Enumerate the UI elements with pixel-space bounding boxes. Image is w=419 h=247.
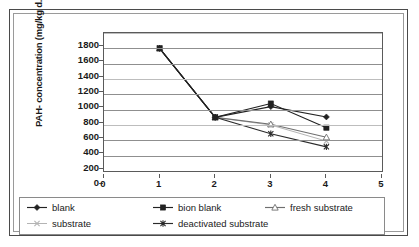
chart-legend: blankbion blankfresh substratesubstrated… xyxy=(19,197,385,235)
y-tick-label: 1600 xyxy=(55,55,99,65)
y-tick-label: 1200 xyxy=(55,86,99,96)
y-tick-label: 600 xyxy=(55,132,99,142)
data-point-filled-diamond xyxy=(323,114,329,120)
gridline xyxy=(104,64,382,65)
gridline xyxy=(104,33,382,34)
legend-label: deactivated substrate xyxy=(178,219,268,229)
data-point-filled-diamond xyxy=(34,205,40,211)
gridline xyxy=(104,94,382,95)
y-tick-label: 1400 xyxy=(55,71,99,81)
legend-marker-filled-diamond-icon xyxy=(26,202,48,213)
x-tick-label: 5 xyxy=(366,179,396,189)
x-axis-ticks: 012345 xyxy=(103,174,383,194)
gridline xyxy=(104,79,382,80)
legend-label: fresh substrate xyxy=(290,203,353,213)
legend-item-substrate[interactable]: substrate xyxy=(26,218,91,229)
x-tick-mark xyxy=(103,174,104,178)
series-lines xyxy=(104,33,382,171)
x-tick-label: 4 xyxy=(310,179,340,189)
x-tick-mark xyxy=(381,174,382,178)
gridline xyxy=(104,156,382,157)
data-point-filled-square xyxy=(160,205,165,210)
legend-marker-cross-x-icon xyxy=(26,218,48,229)
legend-marker-filled-square-icon xyxy=(152,202,174,213)
legend-item-bion-blank[interactable]: bion blank xyxy=(152,202,221,213)
gridline xyxy=(104,125,382,126)
legend-label: bion blank xyxy=(178,203,221,213)
figure: PAH- concentration (mg/kg d.m.) 02004006… xyxy=(0,0,419,247)
legend-item-blank[interactable]: blank xyxy=(26,202,75,213)
y-tick-label: 200 xyxy=(55,163,99,173)
x-tick-mark xyxy=(325,174,326,178)
legend-item-deactivated-substrate[interactable]: deactivated substrate xyxy=(152,218,268,229)
x-tick-mark xyxy=(214,174,215,178)
gridline xyxy=(104,48,382,49)
y-tick-label: 800 xyxy=(55,117,99,127)
gridline xyxy=(104,110,382,111)
legend-label: substrate xyxy=(52,219,91,229)
x-tick-mark xyxy=(159,174,160,178)
x-tick-label: 1 xyxy=(144,179,174,189)
x-tick-label: 3 xyxy=(255,179,285,189)
x-tick-label: 0 xyxy=(88,179,118,189)
x-tick-mark xyxy=(270,174,271,178)
series-line xyxy=(160,48,327,117)
chart-area: PAH- concentration (mg/kg d.m.) 02004006… xyxy=(19,19,398,226)
series-line xyxy=(160,48,327,127)
series-line xyxy=(160,48,327,137)
x-tick-label: 2 xyxy=(199,179,229,189)
y-tick-label: 1000 xyxy=(55,101,99,111)
plot-area xyxy=(103,32,383,172)
legend-item-fresh-substrate[interactable]: fresh substrate xyxy=(264,202,353,213)
legend-label: blank xyxy=(52,203,75,213)
y-tick-label: 400 xyxy=(55,147,99,157)
y-axis-title: PAH- concentration (mg/kg d.m.) xyxy=(33,0,44,142)
gridline xyxy=(104,140,382,141)
y-axis-ticks: 020040060080010001200140016001800 xyxy=(47,32,99,172)
legend-marker-open-triangle-icon xyxy=(264,202,286,213)
y-tick-label: 1800 xyxy=(55,40,99,50)
legend-marker-asterisk-icon xyxy=(152,218,174,229)
